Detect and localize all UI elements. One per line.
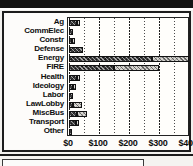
bar-segment <box>73 84 76 90</box>
bar-segment <box>114 65 159 71</box>
bar-segment <box>69 20 77 26</box>
bar-segment <box>69 111 77 117</box>
bar-segment <box>69 29 73 35</box>
x-tick-label-400: $400 <box>178 138 193 148</box>
bar-series-group <box>68 18 188 135</box>
y-axis-label-lawlobby: LawLobby <box>6 100 64 108</box>
bar-segment <box>73 102 83 108</box>
bar-segment <box>69 129 72 135</box>
y-axis-label-other: Other <box>6 127 64 135</box>
y-axis-label-transport: Transport <box>6 118 64 126</box>
x-tick-label-0: $0 <box>63 138 73 148</box>
bar-segment <box>152 56 190 62</box>
x-axis-tick-labels: $0$100$200$300$400 <box>67 138 189 150</box>
y-axis-label-defense: Defense <box>6 45 64 53</box>
bar-segment <box>77 111 88 117</box>
bar-segment <box>77 20 81 26</box>
y-axis-label-constr: Constr <box>6 36 64 44</box>
bar-segment <box>69 65 114 71</box>
y-axis-label-commelec: CommElec <box>6 27 64 35</box>
y-axis-label-miscbus: MiscBus <box>6 109 64 117</box>
bar-segment <box>69 120 76 126</box>
figure-page: AgCommElecConstrDefenseEnergyFIREHealthI… <box>0 0 193 166</box>
bar-segment <box>77 75 81 81</box>
x-tick-label-200: $200 <box>118 138 137 148</box>
chart-figure-frame: AgCommElecConstrDefenseEnergyFIREHealthI… <box>2 11 191 152</box>
bar-segment <box>69 47 83 53</box>
bar-segment <box>76 120 79 126</box>
adjacent-figure-bottom-edge <box>0 154 193 166</box>
bar-segment <box>69 93 73 99</box>
gridline-400 <box>189 18 190 135</box>
y-axis-label-health: Health <box>6 73 64 81</box>
y-axis-label-ag: Ag <box>6 18 64 26</box>
bar-segment <box>72 38 75 44</box>
y-axis-label-ideology: Ideology <box>6 82 64 90</box>
bar-segment <box>69 75 77 81</box>
adjacent-figure-top-edge <box>0 0 193 10</box>
chart-figure-inner: AgCommElecConstrDefenseEnergyFIREHealthI… <box>5 14 188 149</box>
chart-plot-area <box>67 17 189 136</box>
bar-segment <box>69 56 152 62</box>
x-tick-label-300: $300 <box>148 138 167 148</box>
y-axis-label-energy: Energy <box>6 54 64 62</box>
x-tick-label-100: $100 <box>88 138 107 148</box>
y-axis-label-fire: FIRE <box>6 63 64 71</box>
y-axis-label-labor: Labor <box>6 91 64 99</box>
y-axis-category-labels: AgCommElecConstrDefenseEnergyFIREHealthI… <box>7 17 65 136</box>
